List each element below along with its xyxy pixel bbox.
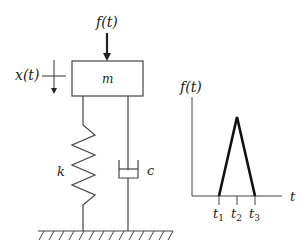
pulse-x-label: t [290, 189, 296, 204]
tick-t1: t1 [213, 206, 224, 223]
pulse-ticks [219, 196, 255, 205]
spring-icon [72, 96, 95, 231]
force-arrow-icon [103, 33, 111, 61]
diagram-canvas: f(t) m x(t) k c [0, 0, 306, 248]
damper-icon [119, 96, 138, 231]
pulse-y-label: f(t) [179, 79, 202, 95]
triangular-pulse-curve [219, 117, 255, 196]
displacement-arrow-icon [42, 60, 66, 94]
displacement-label: x(t) [15, 67, 39, 83]
mass-label: m [102, 72, 113, 86]
force-label: f(t) [95, 14, 118, 30]
tick-t3: t3 [249, 206, 260, 223]
ground-icon [38, 231, 173, 240]
spring-label: k [57, 164, 65, 179]
damper-label: c [147, 163, 155, 178]
pulse-plot-axes [192, 97, 282, 196]
tick-t2: t2 [231, 206, 242, 223]
